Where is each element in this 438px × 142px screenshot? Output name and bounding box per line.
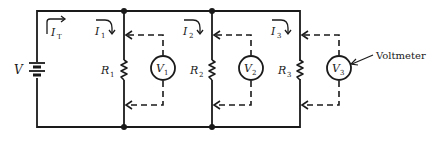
total-current-label: I bbox=[50, 26, 56, 39]
current-i2-label: I bbox=[182, 25, 188, 38]
current-arrows bbox=[47, 16, 291, 34]
voltmeter-annotation: Voltmeter bbox=[375, 50, 426, 61]
svg-text:3: 3 bbox=[287, 71, 291, 79]
svg-text:2: 2 bbox=[189, 32, 193, 40]
svg-text:1: 1 bbox=[164, 69, 168, 77]
current-i3-label: I bbox=[270, 25, 276, 38]
resistor-r2-icon bbox=[209, 60, 215, 80]
svg-text:T: T bbox=[57, 33, 62, 41]
svg-text:3: 3 bbox=[340, 69, 344, 77]
svg-text:3: 3 bbox=[277, 32, 281, 40]
svg-text:1: 1 bbox=[101, 32, 105, 40]
svg-text:2: 2 bbox=[199, 71, 203, 79]
battery-icon bbox=[29, 62, 46, 78]
annotation-arrow-icon bbox=[351, 55, 373, 65]
resistor-r1-label: R bbox=[100, 64, 109, 77]
source-label: V bbox=[14, 63, 24, 77]
svg-text:2: 2 bbox=[252, 69, 256, 77]
resistor-r1-icon bbox=[121, 60, 127, 80]
current-i1-label: I bbox=[94, 25, 100, 38]
circuit-diagram: V bbox=[0, 0, 438, 142]
svg-text:1: 1 bbox=[110, 71, 114, 79]
resistor-r3-label: R bbox=[277, 64, 286, 77]
resistor-r2-label: R bbox=[189, 64, 198, 77]
